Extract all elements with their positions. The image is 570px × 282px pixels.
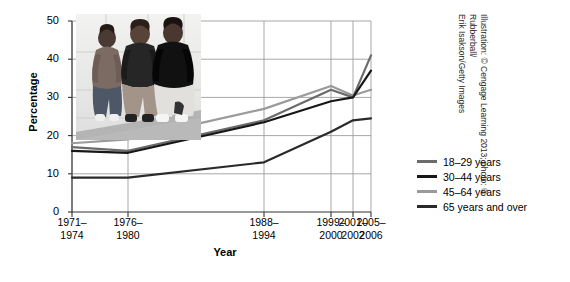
credit-line-2: Erik Isakson/Getty Images — [456, 14, 467, 214]
x-tick-label: 1971–1974 — [49, 216, 95, 242]
y-tick-label: 30 — [33, 90, 59, 102]
credit-text: Illustration: © Cengage Learning 2013; p… — [456, 14, 489, 214]
x-tick-label-line: 1974 — [49, 229, 95, 242]
x-axis-title: Year — [180, 246, 270, 258]
legend-swatch-icon — [417, 190, 437, 193]
x-tick-label-line: 2006 — [348, 229, 394, 242]
x-tick-label-line: 1976– — [105, 216, 151, 229]
legend-swatch-icon — [417, 160, 437, 163]
x-tick-label-line: 2005– — [348, 216, 394, 229]
y-tick-label: 50 — [33, 14, 59, 26]
credit-line-1: Illustration: © Cengage Learning 2013; p… — [467, 14, 489, 214]
x-tick-label: 1988–1994 — [241, 216, 287, 242]
x-tick-label: 1976–1980 — [105, 216, 151, 242]
y-tick-label: 40 — [33, 52, 59, 64]
legend-swatch-icon — [417, 175, 437, 178]
x-tick-label: 2005–2006 — [348, 216, 394, 242]
x-tick-label-line: 1971– — [49, 216, 95, 229]
x-tick-label-line: 1988– — [241, 216, 287, 229]
x-tick-label-line: 1980 — [105, 229, 151, 242]
y-tick-label: 10 — [33, 167, 59, 179]
x-tick-label-line: 1994 — [241, 229, 287, 242]
legend-swatch-icon — [417, 205, 437, 208]
three-people-photo — [76, 14, 201, 140]
obesity-trend-chart-figure: Percentage Year 01020304050 1971–1974197… — [0, 0, 570, 282]
y-tick-label: 20 — [33, 129, 59, 141]
photo-overlay — [76, 14, 201, 140]
